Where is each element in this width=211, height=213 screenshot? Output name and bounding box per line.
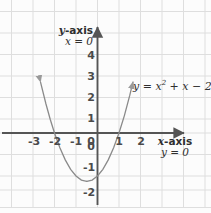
quadratic-graph-figure: -3 -2 -1 0 1 2 4 3 2 1 0 -1 -2 y-axis x … — [0, 0, 211, 213]
y-tick-label-3: 3 — [83, 71, 95, 83]
x-axis-label-group: x-axis y = 0 — [148, 136, 202, 158]
x-axis-equation: y = 0 — [148, 147, 202, 158]
curve-equation-label: y = x2 + x − 2 — [133, 80, 211, 92]
x-tick-label--3: -3 — [27, 136, 41, 148]
x-tick-label--2: -2 — [48, 136, 62, 148]
y-tick-label--1: 0 — [83, 141, 95, 153]
y-tick-label-4: 4 — [83, 50, 95, 62]
grid-lines-horizontal — [0, 12, 211, 208]
y-tick-label-1: 1 — [83, 113, 95, 125]
x-tick-label--1: -1 — [69, 136, 83, 148]
y-tick-label-2: 2 — [83, 92, 95, 104]
plot-canvas — [0, 0, 211, 213]
y-tick-label--3: -2 — [83, 187, 95, 199]
x-tick-label-1: 1 — [112, 136, 126, 148]
y-axis-equation: x = 0 — [38, 36, 93, 47]
x-tick-label-2: 2 — [134, 136, 148, 148]
y-axis-label-group: y-axis x = 0 — [38, 25, 93, 47]
y-tick-label--2: -1 — [83, 162, 95, 174]
parabola-curve-left-branch — [41, 82, 87, 181]
curve-equation-lhs: y = x — [133, 80, 162, 93]
curve-equation-rhs: + x − 2 — [166, 80, 211, 93]
